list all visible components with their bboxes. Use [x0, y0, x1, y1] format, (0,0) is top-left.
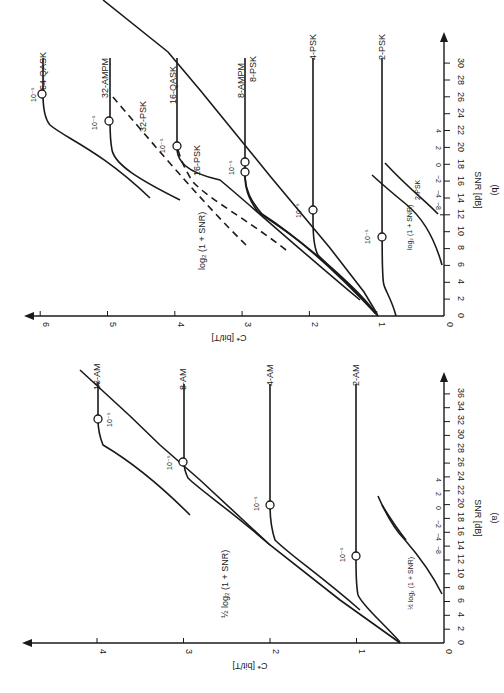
svg-text:0: 0 [444, 649, 454, 654]
capacity-ticks-a [97, 638, 357, 643]
svg-text:4: 4 [435, 478, 442, 482]
arrow-icon [22, 639, 32, 647]
svg-text:8: 8 [456, 585, 466, 590]
svg-text:log₂ (1 + SNR): log₂ (1 + SNR) [406, 205, 414, 250]
svg-text:6: 6 [456, 262, 466, 267]
svg-text:0: 0 [435, 506, 442, 510]
curve-2psk [382, 58, 396, 316]
capacity-tick-labels-a: 0 1 2 3 4 [98, 649, 454, 654]
svg-text:0: 0 [456, 640, 466, 645]
svg-text:10⁻⁵: 10⁻⁵ [159, 138, 166, 153]
svg-text:10⁻⁵: 10⁻⁵ [364, 229, 371, 244]
svg-text:10: 10 [456, 226, 466, 236]
svg-text:10⁻⁵: 10⁻⁵ [30, 87, 37, 102]
svg-text:14: 14 [456, 540, 466, 550]
snr-ticks-b [444, 63, 450, 299]
snr-tick-labels-a: 0 2 4 6 8 10 12 14 16 18 20 22 24 26 28 … [456, 388, 466, 645]
inset-tick-labels-b: −8 −4 −2 0 2 4 [435, 129, 442, 210]
svg-text:8: 8 [456, 245, 466, 250]
ber-marker-8psk [241, 158, 249, 166]
svg-text:−4: −4 [435, 533, 442, 541]
svg-text:1: 1 [357, 649, 367, 654]
svg-text:½ log₂ (1 + SNR): ½ log₂ (1 + SNR) [407, 557, 415, 610]
snr-ticks-a [444, 394, 450, 629]
svg-text:34: 34 [456, 401, 466, 411]
svg-text:22: 22 [456, 125, 466, 135]
svg-text:0: 0 [456, 313, 466, 318]
svg-text:4: 4 [456, 612, 466, 617]
svg-text:½ log₂ (1 + SNR): ½ log₂ (1 + SNR) [220, 550, 230, 618]
capacity-bound-b [103, 0, 378, 316]
curve-2am [356, 384, 400, 642]
ber-marker-16qask [173, 142, 181, 150]
svg-text:8-AM: 8-AM [178, 368, 188, 390]
svg-text:1: 1 [377, 322, 387, 327]
arrow-icon [440, 32, 448, 42]
svg-text:3: 3 [243, 322, 253, 327]
curve-4psk [313, 58, 376, 314]
svg-text:20: 20 [456, 498, 466, 508]
svg-text:32: 32 [456, 415, 466, 425]
svg-text:12: 12 [456, 554, 466, 564]
svg-text:2: 2 [456, 626, 466, 631]
svg-text:18: 18 [456, 512, 466, 522]
svg-text:10: 10 [456, 568, 466, 578]
ber-marker-4psk [309, 206, 317, 214]
bound-label-b: log₂ (1 + SNR) [197, 212, 207, 270]
svg-text:10⁻⁵: 10⁻⁵ [339, 547, 346, 562]
svg-text:2-AM: 2-AM [351, 364, 361, 386]
ber-marker-8ampm [241, 168, 249, 176]
capacity-ticks-b [40, 311, 377, 316]
svg-text:2-PSK: 2-PSK [414, 179, 421, 200]
svg-text:10⁻⁵: 10⁻⁵ [91, 115, 98, 130]
svg-text:8-PSK: 8-PSK [248, 56, 258, 82]
svg-text:3: 3 [184, 649, 194, 654]
curve-4am [270, 384, 360, 610]
panel-label-b: (b) [490, 185, 500, 196]
svg-text:10⁻⁵: 10⁻⁵ [228, 160, 235, 175]
inset-am2 [382, 505, 406, 540]
svg-text:2: 2 [271, 649, 281, 654]
svg-text:4-PSK: 4-PSK [308, 34, 318, 60]
svg-text:36: 36 [456, 388, 466, 398]
svg-text:64-QASK: 64-QASK [38, 52, 48, 90]
capacity-tick-labels-b: 0 1 2 3 4 5 6 [41, 322, 455, 327]
svg-text:6: 6 [41, 322, 51, 327]
curve-8ampm [245, 175, 376, 314]
svg-text:14: 14 [456, 193, 466, 203]
panel-label-a: (a) [490, 513, 500, 524]
svg-text:2: 2 [310, 322, 320, 327]
svg-text:4: 4 [176, 322, 186, 327]
svg-text:16-PSK: 16-PSK [192, 145, 202, 176]
svg-text:−2: −2 [435, 520, 442, 528]
arrow-icon [24, 312, 34, 320]
ber-marker-2am [352, 552, 360, 560]
curve-8psk [245, 58, 376, 314]
svg-text:16: 16 [456, 526, 466, 536]
svg-text:2: 2 [456, 296, 466, 301]
svg-text:4: 4 [98, 649, 108, 654]
inset-tick-labels-a: −8 −4 −2 0 2 4 [435, 478, 442, 554]
panel-b: 0 2 4 6 8 10 12 14 16 18 20 22 24 26 28 … [24, 0, 500, 343]
capacity-bound-a [80, 370, 400, 643]
svg-text:26: 26 [456, 457, 466, 467]
xlabel-b: SNR [dB] [473, 171, 483, 209]
svg-text:22: 22 [456, 485, 466, 495]
svg-text:18: 18 [456, 159, 466, 169]
ber-marker-64qask [38, 90, 46, 98]
xlabel-a: SNR [dB] [473, 499, 483, 537]
ber-marker-16am [94, 415, 102, 423]
ber-marker-8am [179, 458, 187, 466]
curve-8am [184, 384, 270, 545]
curve-32psk [112, 96, 246, 245]
svg-text:4: 4 [435, 129, 442, 133]
svg-text:16-QASK: 16-QASK [168, 66, 178, 104]
ylabel-b: C* [bit/T] [211, 333, 246, 343]
svg-text:2-PSK: 2-PSK [377, 34, 387, 60]
svg-text:6: 6 [456, 598, 466, 603]
svg-text:10⁻⁵: 10⁻⁵ [295, 203, 302, 218]
svg-text:24: 24 [456, 471, 466, 481]
svg-text:5: 5 [108, 322, 118, 327]
ber-marker-2psk [378, 233, 386, 241]
svg-text:0: 0 [435, 163, 442, 167]
